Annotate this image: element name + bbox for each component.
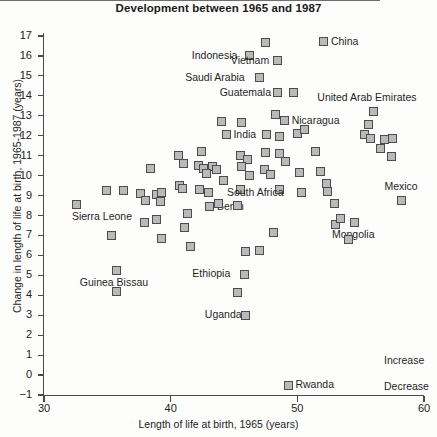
point-label-guatemala: Guatemala [220, 87, 271, 99]
data-point[interactable] [183, 209, 192, 218]
data-point[interactable] [336, 214, 345, 223]
data-point[interactable] [107, 231, 116, 240]
data-point[interactable] [217, 117, 226, 126]
data-point[interactable] [237, 162, 246, 171]
data-point-guatemala[interactable] [273, 88, 282, 97]
point-label-uganda: Uganda [205, 309, 242, 321]
data-point[interactable] [157, 234, 166, 243]
data-point[interactable] [261, 148, 270, 157]
point-label-sierra-leone: Sierra Leone [72, 211, 132, 223]
data-point[interactable] [141, 196, 150, 205]
zero-reference-line [0, 0, 380, 1]
data-point[interactable] [140, 218, 149, 227]
data-point[interactable] [300, 125, 309, 134]
point-label-vietnam: Vietnam [231, 55, 269, 67]
data-point[interactable] [219, 176, 228, 185]
data-point[interactable] [146, 164, 155, 173]
data-point[interactable] [269, 228, 278, 237]
data-point[interactable] [195, 185, 204, 194]
data-point[interactable] [316, 167, 325, 176]
data-point[interactable] [157, 188, 166, 197]
scatter-chart: Development between 1965 and 1987 −10123… [0, 0, 437, 437]
data-point[interactable] [156, 197, 165, 206]
data-point[interactable] [178, 184, 187, 193]
data-point-guinea-bissau[interactable] [112, 266, 121, 275]
data-point[interactable] [388, 134, 397, 143]
data-point[interactable] [204, 188, 213, 197]
data-point[interactable] [241, 247, 250, 256]
data-point[interactable] [102, 186, 111, 195]
data-point-sierra-leone[interactable] [72, 200, 81, 209]
data-point[interactable] [186, 242, 195, 251]
data-point[interactable] [197, 147, 206, 156]
data-point-uganda[interactable] [241, 311, 250, 320]
data-point[interactable] [281, 157, 290, 166]
data-point[interactable] [261, 38, 270, 47]
data-point[interactable] [387, 152, 396, 161]
point-label-saudi-arabia: Saudi Arabia [185, 72, 245, 84]
data-point[interactable] [262, 130, 271, 139]
y-axis-title: Change in length of life at birth, 1965-… [11, 16, 23, 376]
point-label-china: China [331, 36, 358, 48]
x-axis-title: Length of life at birth, 1965 (years) [0, 418, 437, 430]
point-label-nicaragua: Nicaragua [292, 115, 340, 127]
data-point-saudi-arabia[interactable] [255, 73, 264, 82]
data-point[interactable] [212, 165, 221, 174]
data-point-benin[interactable] [205, 202, 214, 211]
data-point-vietnam[interactable] [273, 56, 282, 65]
data-point-india[interactable] [222, 130, 231, 139]
point-label-ethiopia: Ethiopia [192, 268, 230, 280]
data-point[interactable] [366, 134, 375, 143]
data-point[interactable] [330, 199, 339, 208]
data-point[interactable] [271, 110, 280, 119]
annotation-increase: Increase [384, 354, 424, 366]
point-label-united-arab-emirates: United Arab Emirates [317, 92, 416, 104]
data-point[interactable] [233, 201, 242, 210]
data-point[interactable] [152, 215, 161, 224]
x-tick-label: 40 [151, 402, 191, 414]
chart-title: Development between 1965 and 1987 [0, 2, 437, 14]
data-point[interactable] [295, 168, 304, 177]
y-tick-label: −1 [10, 388, 32, 400]
data-point[interactable] [233, 288, 242, 297]
point-label-mongolia: Mongolia [332, 229, 375, 241]
data-point[interactable] [364, 120, 373, 129]
data-point[interactable] [266, 170, 275, 179]
data-point[interactable] [202, 169, 211, 178]
data-point[interactable] [214, 199, 223, 208]
data-point[interactable] [311, 147, 320, 156]
data-point[interactable] [344, 235, 353, 244]
point-label-rwanda: Rwanda [295, 379, 334, 391]
data-point-united-arab-emirates[interactable] [369, 107, 378, 116]
x-tick-label: 60 [404, 402, 437, 414]
data-point[interactable] [179, 159, 188, 168]
x-tick-label: 30 [24, 402, 64, 414]
data-point[interactable] [119, 186, 128, 195]
data-point[interactable] [180, 223, 189, 232]
data-point-china[interactable] [319, 37, 328, 46]
point-label-mexico: Mexico [384, 181, 417, 193]
data-point-south-africa[interactable] [297, 188, 306, 197]
data-point[interactable] [275, 132, 284, 141]
data-point-mexico[interactable] [397, 196, 406, 205]
data-point[interactable] [245, 171, 254, 180]
data-point[interactable] [376, 144, 385, 153]
data-point-nicaragua[interactable] [280, 116, 289, 125]
data-point[interactable] [289, 88, 298, 97]
data-point[interactable] [255, 246, 264, 255]
data-point-mongolia[interactable] [350, 218, 359, 227]
data-point-rwanda[interactable] [284, 381, 293, 390]
data-point[interactable] [237, 118, 246, 127]
data-point[interactable] [323, 187, 332, 196]
point-label-south-africa: South Africa [227, 187, 284, 199]
data-point[interactable] [112, 287, 121, 296]
x-tick-label: 50 [277, 402, 317, 414]
point-label-india: India [233, 129, 256, 141]
annotation-decrease: Decrease [384, 380, 429, 392]
data-point-ethiopia[interactable] [240, 270, 249, 279]
